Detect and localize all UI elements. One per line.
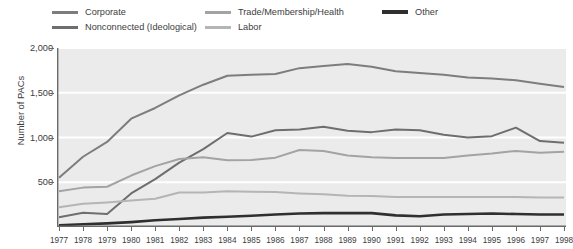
legend-item-trade-membership-health[interactable]: Trade/Membership/Health	[205, 7, 344, 17]
series-line-nonconnected-ideological	[59, 127, 564, 217]
y-tick-label-1000: 1,000	[7, 133, 53, 143]
x-tick-mark-1989	[348, 227, 349, 231]
x-tick-label-1990: 1990	[363, 236, 381, 246]
x-tick-label-1995: 1995	[483, 236, 501, 246]
x-tick-mark-1988	[324, 227, 325, 231]
series-line-corporate	[59, 64, 564, 178]
y-tick-mark-1500	[49, 93, 54, 94]
x-tick-label-1997: 1997	[531, 236, 549, 246]
series-line-trade-membership-health	[59, 150, 564, 191]
legend-item-other[interactable]: Other	[382, 7, 438, 17]
legend-label-nonconnected: Nonconnected (Ideological)	[85, 22, 197, 32]
chart-legend: Corporate Nonconnected (Ideological) Tra…	[0, 0, 571, 40]
x-tick-mark-1997	[540, 227, 541, 231]
legend-item-corporate[interactable]: Corporate	[52, 7, 126, 17]
x-tick-label-1996: 1996	[507, 236, 525, 246]
legend-swatch-other	[382, 10, 408, 14]
x-tick-label-1979: 1979	[98, 236, 116, 246]
x-tick-label-1993: 1993	[435, 236, 453, 246]
legend-item-nonconnected[interactable]: Nonconnected (Ideological)	[52, 22, 197, 32]
x-tick-label-1998: 1998	[555, 236, 573, 246]
y-tick-mark-1000	[49, 138, 54, 139]
x-tick-mark-1992	[420, 227, 421, 231]
legend-label-trade-membership-health: Trade/Membership/Health	[238, 7, 344, 17]
x-tick-mark-1991	[396, 227, 397, 231]
x-tick-label-1986: 1986	[266, 236, 284, 246]
x-tick-mark-1990	[372, 227, 373, 231]
legend-swatch-trade-membership-health	[205, 11, 231, 14]
x-tick-mark-1993	[444, 227, 445, 231]
x-tick-mark-1986	[275, 227, 276, 231]
x-tick-label-1987: 1987	[290, 236, 308, 246]
legend-label-other: Other	[415, 7, 438, 17]
x-tick-mark-1978	[83, 227, 84, 231]
x-tick-mark-1979	[107, 227, 108, 231]
x-tick-label-1984: 1984	[218, 236, 236, 246]
x-axis-tick-labels: 1977197819791980198119821983198419851986…	[57, 232, 566, 246]
y-tick-label-500: 500	[7, 177, 53, 187]
x-tick-label-1981: 1981	[146, 236, 164, 246]
x-tick-label-1989: 1989	[338, 236, 356, 246]
legend-item-labor[interactable]: Labor	[205, 22, 262, 32]
x-tick-mark-1984	[227, 227, 228, 231]
y-axis-tick-labels: 5001,0001,5002,000	[0, 0, 53, 249]
y-tick-label-2000: 2,000	[7, 43, 53, 53]
x-tick-mark-1985	[251, 227, 252, 231]
y-tick-mark-2000	[49, 48, 54, 49]
x-tick-mark-1980	[131, 227, 132, 231]
legend-label-corporate: Corporate	[85, 7, 126, 17]
legend-swatch-corporate	[52, 11, 78, 14]
x-tick-mark-1987	[299, 227, 300, 231]
series-line-labor	[59, 191, 564, 207]
x-tick-label-1983: 1983	[194, 236, 212, 246]
series-line-other	[59, 213, 564, 225]
x-tick-mark-1996	[516, 227, 517, 231]
y-tick-label-1500: 1,500	[7, 88, 53, 98]
x-tick-mark-1994	[468, 227, 469, 231]
x-tick-label-1985: 1985	[242, 236, 260, 246]
x-tick-label-1978: 1978	[74, 236, 92, 246]
legend-swatch-nonconnected	[52, 26, 78, 29]
x-tick-mark-1995	[492, 227, 493, 231]
plot-svg	[57, 48, 566, 227]
y-tick-mark-500	[49, 182, 54, 183]
x-tick-label-1980: 1980	[122, 236, 140, 246]
x-tick-label-1994: 1994	[459, 236, 477, 246]
x-tick-mark-1998	[564, 227, 565, 231]
x-tick-label-1992: 1992	[411, 236, 429, 246]
x-tick-label-1991: 1991	[387, 236, 405, 246]
legend-swatch-labor	[205, 26, 231, 29]
x-tick-mark-1982	[179, 227, 180, 231]
plot-area	[57, 48, 566, 227]
x-tick-mark-1977	[59, 227, 60, 231]
x-tick-label-1977: 1977	[50, 236, 68, 246]
legend-label-labor: Labor	[238, 22, 262, 32]
x-tick-label-1988: 1988	[314, 236, 332, 246]
x-tick-mark-1981	[155, 227, 156, 231]
x-tick-mark-1983	[203, 227, 204, 231]
x-tick-label-1982: 1982	[170, 236, 188, 246]
